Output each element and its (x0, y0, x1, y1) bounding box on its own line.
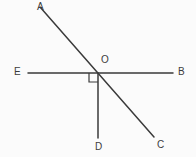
geometry-figure: A E O B D C (0, 0, 196, 157)
geometry-canvas (0, 0, 196, 157)
point-label-O: O (101, 55, 109, 65)
point-label-B: B (178, 67, 185, 77)
point-label-A: A (37, 2, 44, 12)
point-label-E: E (14, 67, 21, 77)
point-label-C: C (157, 140, 164, 150)
point-label-D: D (95, 142, 102, 152)
